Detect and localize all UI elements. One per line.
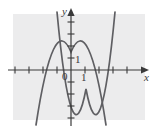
parabola-graph-figure: y x 0 1 1 [0,0,155,129]
upward-parabola-curve [57,12,115,115]
y-axis-label: y [62,6,67,17]
origin-label: 0 [62,71,68,82]
y-axis-arrowhead [67,8,74,16]
x-unit-label: 1 [81,72,87,83]
y-unit-label: 1 [75,54,81,65]
x-axis-label: x [144,72,149,83]
